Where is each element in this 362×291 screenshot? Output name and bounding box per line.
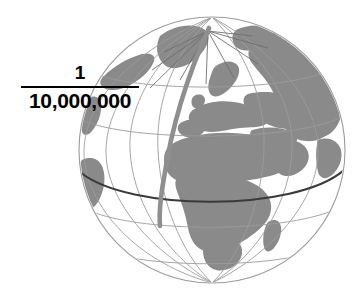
scale-fraction-bar [21, 86, 139, 88]
scale-denominator: 10,000,000 [18, 89, 142, 113]
scale-numerator: 1 [18, 62, 142, 84]
scale-fraction: 1 10,000,000 [18, 62, 142, 113]
globe-scale-figure: 1 10,000,000 [0, 0, 362, 291]
earth-globe [0, 0, 362, 291]
